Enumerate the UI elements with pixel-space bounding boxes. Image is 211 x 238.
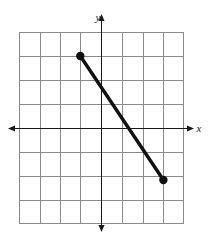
coordinate-plane-svg: x y [0,0,211,238]
x-axis-label: x [196,122,202,134]
figure-background [0,0,211,238]
segment-endpoint-upper-left [76,52,84,60]
y-axis-label: y [95,11,101,23]
segment-endpoint-lower-right [159,176,167,184]
coordinate-graph-figure: x y [0,0,211,238]
